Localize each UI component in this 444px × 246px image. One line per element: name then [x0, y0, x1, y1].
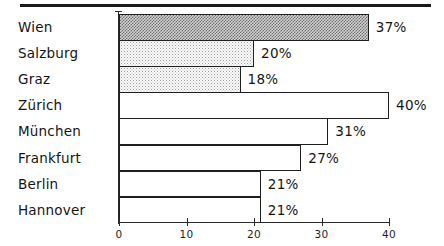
x-axis-tick: [322, 218, 323, 226]
bar: [119, 14, 369, 41]
category-label: Salzburg: [18, 40, 116, 66]
category-label: Graz: [18, 66, 116, 92]
bar-value-label: 21%: [268, 197, 299, 223]
x-axis-tick-label: 30: [302, 228, 342, 240]
category-label: Berlin: [18, 171, 116, 197]
bar: [119, 66, 241, 93]
bar: [119, 197, 261, 224]
plot-area: WienSalzburgGrazZürichMünchenFrankfurtBe…: [0, 0, 444, 246]
x-axis-tick-label: 40: [369, 228, 409, 240]
x-axis-tick: [119, 218, 120, 226]
bar-value-label: 40%: [396, 92, 427, 118]
x-axis-tick: [389, 218, 390, 226]
x-axis-tick-label: 20: [234, 228, 274, 240]
category-label: Frankfurt: [18, 145, 116, 171]
y-axis-top-cap: [115, 11, 122, 12]
bar-value-label: 18%: [248, 66, 279, 92]
category-label: Wien: [18, 14, 116, 40]
bar-value-label: 37%: [376, 14, 407, 40]
bar-chart-figure: WienSalzburgGrazZürichMünchenFrankfurtBe…: [0, 0, 444, 246]
category-label: Zürich: [18, 92, 116, 118]
x-axis-tick: [187, 218, 188, 226]
bar: [119, 118, 328, 145]
bar-value-label: 27%: [308, 145, 339, 171]
x-axis-tick-label: 10: [167, 228, 207, 240]
x-axis-tick: [254, 218, 255, 226]
bar: [119, 40, 254, 67]
category-label: München: [18, 118, 116, 144]
bar-value-label: 31%: [335, 118, 366, 144]
bar-value-label: 21%: [268, 171, 299, 197]
bar: [119, 145, 301, 172]
x-axis-tick-label: 0: [99, 228, 139, 240]
bar: [119, 92, 389, 119]
bar-value-label: 20%: [261, 40, 292, 66]
bar: [119, 171, 261, 198]
category-label: Hannover: [18, 197, 116, 223]
